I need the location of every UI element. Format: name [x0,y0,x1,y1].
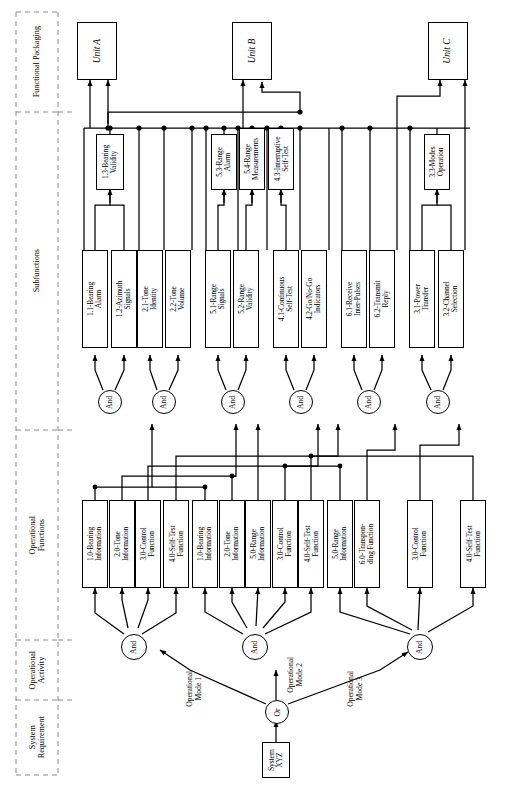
operational-function-8[interactable]: 3.0-Control Function [272,500,298,588]
operational-function-4[interactable]: 4.0-Self-Test Function [163,500,189,588]
and-gate-subfunction-3[interactable]: And [221,390,245,414]
derived-subfunction-3-3-modes-operation[interactable]: 3.3-Modes Operation [424,134,450,190]
zone-label-subfunctions: Subfunctions [16,112,58,430]
diagram-canvas: Functional Packaging Subfunctions Operat… [0,0,514,787]
and-gate-subfunction-1[interactable]: And [98,390,122,414]
subfunction-2-2-tone-volume[interactable]: 2.2-Tone Volume [165,250,191,348]
subfunction-5-2-range-validity[interactable]: 5.2-Range Validity [233,250,259,348]
operational-function-6[interactable]: 2.0-Tone Information [219,500,245,588]
operational-function-12[interactable]: 3.0-Control Function [407,500,433,588]
derived-subfunction-1-3-bearing-validity[interactable]: 1.3-Bearing Validity [96,134,124,190]
subfunction-3-1-power-transfer[interactable]: 3.1-Power Transfer [409,250,435,348]
and-gate-activity-3[interactable]: And [407,634,433,660]
subfunction-4-1-continuous-self-test[interactable]: 4.1-Continuous Self-Test [273,250,299,348]
operational-function-7[interactable]: 5.0-Range Information [245,500,271,588]
subfunction-6-2-transmit-reply[interactable]: 6.2-Transmit Reply [369,250,395,348]
and-gate-subfunction-4[interactable]: And [289,390,313,414]
and-gate-activity-1[interactable]: And [121,634,147,660]
operational-function-10[interactable]: 5.0-Range Information [327,500,353,588]
operational-function-2[interactable]: 2.0-Tone Information [109,500,135,588]
system-requirement-box[interactable]: System XYZ [262,742,290,778]
zone-label-operational-functions: Operational Functions [16,430,58,640]
derived-subfunction-5-4-range-measurements[interactable]: 5.4-Range Measurements [239,128,265,190]
subfunction-1-1-bearing-alarm[interactable]: 1.1-Bearing Alarm [82,250,108,348]
operational-function-1[interactable]: 1.0-Bearing Information [82,500,108,588]
unit-box-c[interactable]: Unit C [428,22,468,80]
subfunction-1-2-azimuth-signals[interactable]: 1.2-Azimuth Signals [111,250,137,348]
edge-label-operational-mode-2: Operational Mode 2 [278,640,314,710]
subfunction-5-1-range-signals[interactable]: 5.1-Range Signals [205,250,231,348]
and-gate-subfunction-2[interactable]: And [152,390,176,414]
subfunction-3-2-channel-selection[interactable]: 3.2-Channel Selection [438,250,464,348]
operational-function-13[interactable]: 4.0-Self-Test Function [460,500,486,588]
derived-subfunction-5-3-range-alarm[interactable]: 5.3-Range Alarm [211,134,237,190]
operational-function-5[interactable]: 1.0-Bearing Information [192,500,218,588]
subfunction-6-1-receive-inter-pulses[interactable]: 6.1-Receive Inter-Pulses [341,250,367,348]
edge-label-operational-mode-1: Operational Mode 1 [177,660,213,718]
zone-label-system-requirement: System Requirement [16,700,58,775]
subfunction-2-1-tone-identity[interactable]: 2.1-Tone Identity [137,250,163,348]
subfunction-4-2-go-no-go-indicators[interactable]: 4.2-Go/No-Go Indicators [301,250,327,348]
operational-function-9[interactable]: 4.0-Self-Test Function [298,500,324,588]
operational-function-3[interactable]: 3.0-Control Function [135,500,161,588]
edge-label-operational-mode-3: Operational Mode 3 [338,655,374,723]
derived-subfunction-4-3-interruptive-self-test[interactable]: 4.3-Interruptive Self-Test [268,128,294,190]
and-gate-subfunction-5[interactable]: And [357,390,381,414]
and-gate-activity-2[interactable]: And [242,634,268,660]
unit-box-a[interactable]: Unit A [77,22,117,80]
zone-label-functional-packaging: Functional Packaging [16,12,58,112]
and-gate-subfunction-6[interactable]: And [426,390,450,414]
unit-box-b[interactable]: Unit B [232,22,272,80]
zone-label-operational-activity: Operational Activity [16,640,58,700]
operational-function-11[interactable]: 6.0-Transpon- ding Function [354,500,380,588]
